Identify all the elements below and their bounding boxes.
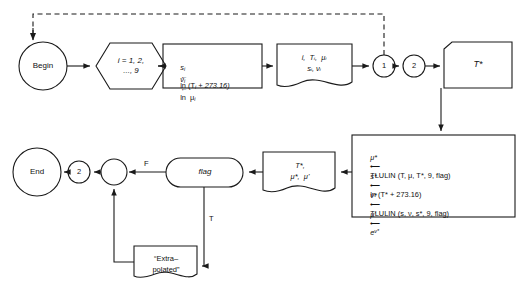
compute-rhs-2-sub: i <box>194 97 195 103</box>
tlulin-line-2-lhs: s* <box>370 172 377 181</box>
compute-assign-arrow-2: ← <box>180 84 187 93</box>
print-results-node-shape <box>263 152 335 192</box>
edge-label-true: T <box>209 214 214 223</box>
edge-label-false: F <box>144 159 149 168</box>
tlulin-line-3-rhs: TLULIN (s, ν, s*, 9, flag) <box>370 209 449 218</box>
tlulin-line-3-lhs: ν* <box>370 191 377 200</box>
end-node-shape <box>13 148 61 196</box>
edge-extrapolated-to-merge <box>114 189 134 262</box>
compute-rhs-2: ln μ <box>180 93 194 102</box>
compute-rhs-1-tail: + 273.16) <box>196 81 230 90</box>
merge-circle-shape <box>101 159 127 185</box>
connector-2-bottom-shape <box>68 161 90 183</box>
flowchart-canvas: Begin i = 1, 2, ..., 9 si ← ln (Ti + 273… <box>0 0 523 288</box>
connector-2-top-shape <box>403 55 425 77</box>
tlulin-line-4-arrow: ⟵ <box>370 219 380 228</box>
print-table-node-shape <box>277 44 352 87</box>
edge-flag-true-to-extrapolated <box>202 187 204 266</box>
input-tstar-shape <box>444 42 512 88</box>
tlulin-line-1-lhs: μ* <box>370 153 377 162</box>
extrapolated-node-shape <box>134 246 197 277</box>
tlulin-line-4-lhs: μ' <box>370 210 375 219</box>
loop-node-shape <box>96 43 166 89</box>
edge-dashed-feedback <box>33 14 384 55</box>
tlulin-line-4-exp: ν* <box>374 228 379 234</box>
begin-node-shape <box>19 42 67 90</box>
compute-node-line2: νi ← ln μi <box>172 66 196 112</box>
tlulin-line-4: μ' ⟵ eν* <box>362 201 380 246</box>
connector-1-shape <box>373 55 395 77</box>
flag-node-shape <box>166 158 243 187</box>
